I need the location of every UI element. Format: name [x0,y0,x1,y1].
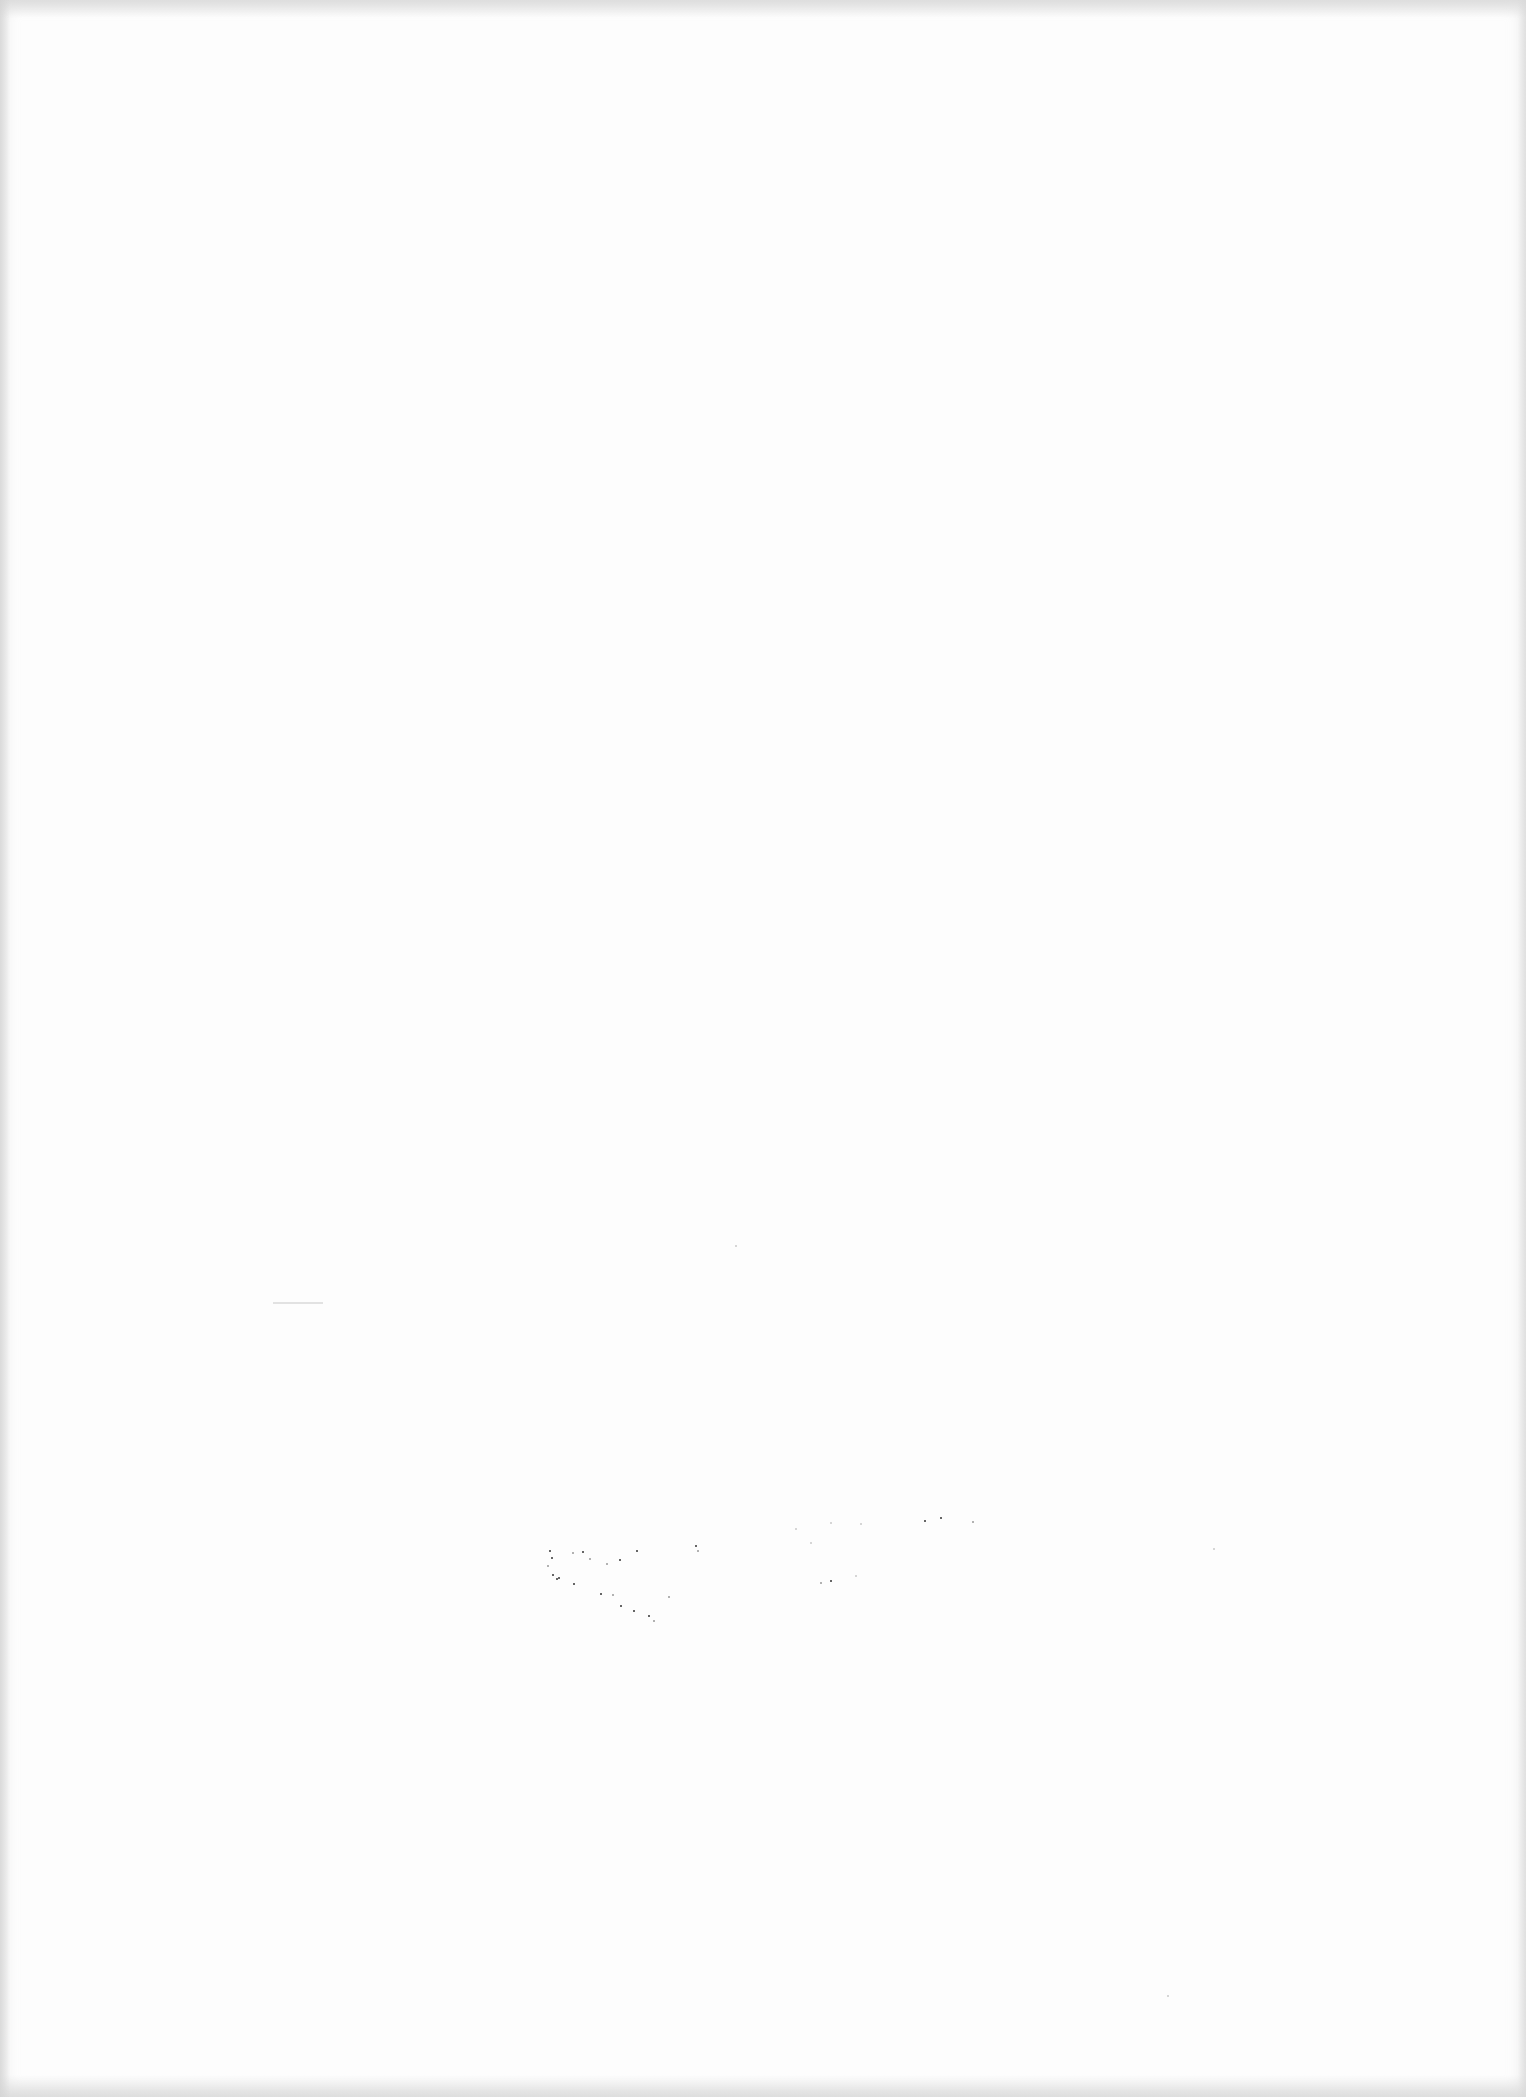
scan-speck [924,1520,926,1522]
scan-speck [810,1542,812,1544]
scan-speck [972,1521,974,1523]
scan-speck [1213,1548,1215,1550]
scan-speck [589,1558,591,1560]
scan-speck [668,1596,670,1598]
scan-speck [552,1574,554,1576]
scan-edge-left [0,0,10,2097]
scan-speck [572,1552,574,1554]
scan-speck [648,1615,650,1617]
scan-edge-top [0,0,1526,18]
scan-speck [612,1594,614,1596]
scan-speck [582,1551,584,1553]
scan-speck [830,1580,832,1582]
scan-speck [619,1559,621,1561]
scanned-page [0,0,1526,2097]
scan-edge-right [1518,0,1526,2097]
scan-edge-bottom [0,2075,1526,2097]
scan-speck [1167,1995,1169,1997]
scan-speck [549,1550,551,1552]
scan-speck [636,1550,638,1552]
scan-speck [600,1593,602,1595]
scan-speck [633,1610,635,1612]
scan-speck [606,1563,608,1565]
scan-speck [860,1523,862,1525]
scan-speck [940,1517,942,1519]
faint-line-mark [273,1302,323,1304]
scan-speck [830,1522,832,1524]
scan-speck [697,1550,699,1552]
scan-speck [620,1605,622,1607]
scan-speck [820,1582,822,1584]
scan-speck [795,1528,797,1530]
scan-speck [573,1583,575,1585]
scan-speck [735,1245,737,1247]
scan-speck [547,1565,549,1567]
scan-speck [653,1620,655,1622]
scan-speck [855,1575,857,1577]
scan-speck [695,1545,697,1547]
scan-speck [551,1557,553,1559]
scan-speck [558,1577,560,1579]
